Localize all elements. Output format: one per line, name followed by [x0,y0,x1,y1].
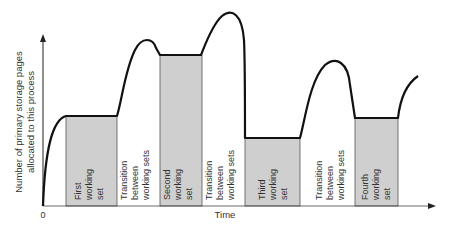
region-label-line: working [268,169,278,201]
region-label-line: working [173,169,183,201]
region-label-line: First [73,182,83,200]
region-label-line: between [130,166,140,200]
region-label-transition-2: Transition between working sets [204,149,236,201]
y-axis-arrow-icon [40,34,46,42]
region-label-transition-1: Transition between working sets [119,149,151,201]
region-label-line: working [371,169,381,201]
region-label-line: Transition [119,161,129,200]
origin-label: 0 [40,210,45,220]
region-label-line: Fourth [360,174,370,200]
region-label-line: set [184,187,194,200]
region-label-line: between [325,166,335,200]
region-label-line: Transition [204,161,214,200]
region-label-line: Third [257,179,267,200]
region-label-line: working sets [141,149,151,201]
region-label-line: Second [162,169,172,200]
region-label-line: set [382,187,392,200]
region-label-line: set [279,187,289,200]
x-axis-arrow-icon [428,203,436,209]
working-set-diagram: Number of primary storage pages allocate… [0,0,451,231]
region-label-line: between [215,166,225,200]
y-axis-label-line-2: allocated to this process [25,71,36,173]
region-label-line: Transition [314,161,324,200]
region-label-line: working [84,169,94,201]
region-label-transition-3: Transition between working sets [314,149,346,201]
region-label-line: set [95,187,105,200]
x-axis-label: Time [215,209,236,220]
y-axis-label-line-1: Number of primary storage pages [13,51,24,193]
region-label-line: working sets [336,149,346,201]
region-label-line: working sets [226,149,236,201]
